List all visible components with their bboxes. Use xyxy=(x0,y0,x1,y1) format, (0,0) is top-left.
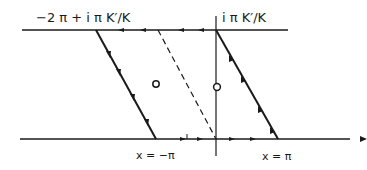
label-top-right: i π K′/K xyxy=(222,10,267,25)
contour-diagram: −2 π + i π K′/K i π K′/K x = −π x = π xyxy=(0,0,367,170)
right-edge xyxy=(216,30,278,139)
label-top-left: −2 π + i π K′/K xyxy=(36,10,131,25)
pole-circle-left xyxy=(153,81,159,87)
label-bottom-left: x = −π xyxy=(136,149,175,162)
label-bottom-right: x = π xyxy=(262,150,292,163)
pole-circle-axis xyxy=(214,84,221,91)
dashed-line xyxy=(158,30,216,139)
